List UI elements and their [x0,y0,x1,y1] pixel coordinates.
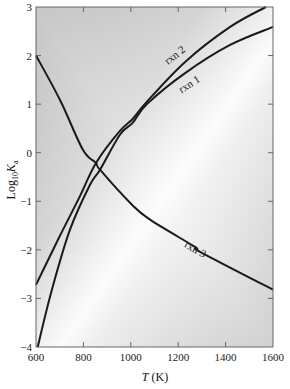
x-tick-label: 1400 [215,351,238,363]
x-tick-label: 1200 [167,351,190,363]
x-tick-label: 1000 [120,351,143,363]
x-axis-label: T (K) [142,370,168,384]
plot-highlight-band [36,7,273,347]
x-tick-label: 800 [75,351,92,363]
y-tick-label: 3 [27,1,33,13]
y-tick-label: 1 [27,98,33,110]
chart: rxn 2rxn 1rxn 3 6008001000120014001600 3… [0,0,290,389]
plot-area: rxn 2rxn 1rxn 3 [36,7,273,347]
x-tick-label: 1600 [262,351,285,363]
y-axis-label-base: 10 [11,172,20,180]
y-tick-label: 2 [27,50,33,62]
y-tick-label: −4 [20,341,32,353]
y-tick-label: −2 [20,244,32,256]
x-tick-labels: 6008001000120014001600 [28,351,285,363]
y-axis-label-sub: a [11,160,20,164]
y-axis-label-log: Log [4,180,18,199]
y-tick-label: −1 [20,195,32,207]
y-tick-labels: 3210−1−2−3−4 [20,1,32,353]
x-axis-label-unit: (K) [149,370,169,384]
y-tick-label: −3 [20,292,32,304]
y-axis-label: Log10Ka [4,160,20,199]
y-tick-label: 0 [27,147,33,159]
